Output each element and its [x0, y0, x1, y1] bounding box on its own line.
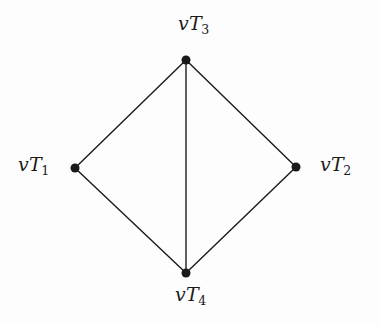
node-label-t1-base: v — [18, 153, 29, 175]
node-label-t3: vT3 — [178, 14, 210, 33]
node-label-t4-subscript: T4 — [186, 283, 207, 305]
node-label-t4-base: v — [175, 283, 186, 305]
node-label-t1: vT1 — [18, 155, 50, 174]
graph-diagram-figure: vT3 vT1 vT2 vT4 — [0, 0, 379, 325]
node-label-t2-subscript: T2 — [331, 153, 352, 175]
node-label-t4-sub-letter: T — [186, 283, 199, 305]
node-label-t3-sub-letter: T — [189, 12, 202, 34]
node-label-t4: vT4 — [175, 285, 207, 304]
edge-t1-t3 — [75, 60, 186, 168]
node-label-t3-subscript: T3 — [189, 12, 210, 34]
node-label-t1-sub-index: 1 — [41, 163, 49, 178]
node-label-t2-base: v — [320, 153, 331, 175]
edge-t3-t2 — [186, 60, 296, 167]
node-t2 — [292, 163, 301, 172]
node-label-t1-subscript: T1 — [29, 153, 50, 175]
node-label-t3-sub-index: 3 — [201, 22, 209, 37]
node-label-t1-sub-letter: T — [29, 153, 42, 175]
node-label-t2: vT2 — [320, 155, 352, 174]
edge-t1-t4 — [75, 168, 186, 273]
node-label-t2-sub-index: 2 — [343, 163, 351, 178]
node-label-t2-sub-letter: T — [331, 153, 344, 175]
node-t4 — [182, 269, 191, 278]
node-t1 — [71, 164, 80, 173]
edge-t2-t4 — [186, 167, 296, 273]
node-t3 — [182, 56, 191, 65]
node-label-t3-base: v — [178, 12, 189, 34]
node-label-t4-sub-index: 4 — [198, 293, 206, 308]
